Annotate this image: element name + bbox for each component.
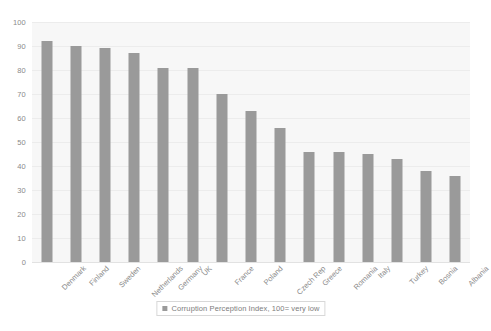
bar-slot [61, 22, 90, 262]
bar-slot [236, 22, 265, 262]
y-axis-tick-label: 30 [17, 186, 26, 195]
legend-swatch [162, 306, 167, 311]
bar[interactable] [275, 128, 286, 262]
bars-layer [32, 22, 470, 262]
bar-slot [178, 22, 207, 262]
y-axis-tick-label: 60 [17, 114, 26, 123]
x-axis-tick-label: Poland [262, 264, 285, 287]
bar-slot [353, 22, 382, 262]
bar-slot [32, 22, 61, 262]
x-axis-tick-label: Sweden [117, 264, 143, 290]
bar[interactable] [70, 46, 81, 262]
y-axis-tick-label: 90 [17, 42, 26, 51]
y-axis-tick-label: 100 [13, 18, 26, 27]
y-axis-tick-label: 40 [17, 162, 26, 171]
bar[interactable] [304, 152, 315, 262]
y-axis-tick-label: 70 [17, 90, 26, 99]
y-axis-tick-label: 50 [17, 138, 26, 147]
bar-slot [412, 22, 441, 262]
bar[interactable] [99, 48, 110, 262]
gridline [32, 262, 470, 263]
x-axis-tick-label: Italy [376, 264, 392, 280]
x-axis-tick-label: Albania [467, 264, 491, 288]
bar[interactable] [333, 152, 344, 262]
y-axis-tick-label: 10 [17, 234, 26, 243]
bar[interactable] [129, 53, 140, 262]
bar[interactable] [362, 154, 373, 262]
bar[interactable] [391, 159, 402, 262]
x-axis-tick-label: France [233, 264, 256, 287]
x-axis-tick-label: Turkey [408, 264, 430, 286]
chart-legend: Corruption Perception Index, 100= very l… [156, 301, 325, 316]
bar-slot [324, 22, 353, 262]
x-axis-tick-label: Denmark [60, 264, 88, 292]
bar-slot [207, 22, 236, 262]
bar[interactable] [187, 68, 198, 262]
y-axis: 0102030405060708090100 [0, 22, 30, 262]
bar[interactable] [421, 171, 432, 262]
bar-slot [382, 22, 411, 262]
x-axis-tick-label: Bosnia [437, 264, 460, 287]
y-axis-tick-label: 80 [17, 66, 26, 75]
y-axis-tick-label: 20 [17, 210, 26, 219]
bar[interactable] [158, 68, 169, 262]
bar-slot [120, 22, 149, 262]
legend-label: Corruption Perception Index, 100= very l… [171, 304, 319, 313]
x-axis-tick-label: Romania [351, 264, 379, 292]
bar[interactable] [245, 111, 256, 262]
bar-slot [90, 22, 119, 262]
bar-slot [441, 22, 470, 262]
bar[interactable] [450, 176, 461, 262]
bar-slot [266, 22, 295, 262]
x-axis-tick-label: Finland [87, 264, 111, 288]
x-axis-tick-label: UK [200, 264, 214, 278]
bar-slot [149, 22, 178, 262]
y-axis-tick-label: 0 [22, 258, 26, 267]
bar[interactable] [216, 94, 227, 262]
bar[interactable] [41, 41, 52, 262]
x-axis-labels: DenmarkFinlandSwedenNetherlandsGermanyUK… [32, 264, 470, 304]
bar-slot [295, 22, 324, 262]
